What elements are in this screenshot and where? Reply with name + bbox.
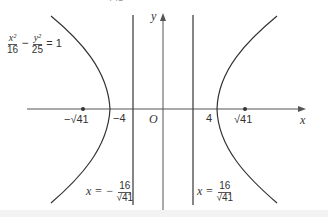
y-axis-label: y xyxy=(151,10,156,22)
neg-focus-label: −√41 xyxy=(64,114,89,125)
top-cut-text: √41 xyxy=(108,0,123,3)
pos-focus-label: √41 xyxy=(234,114,252,125)
right-focus-point xyxy=(243,107,247,111)
equation-label: x²16 − y²25 = 1 xyxy=(7,33,62,55)
origin-label: O xyxy=(149,113,158,125)
left-focus-point xyxy=(81,107,85,111)
bottom-strip xyxy=(0,210,328,217)
right-directrix-label: x = 16√41 xyxy=(197,181,233,203)
x-axis-label: x xyxy=(300,114,305,126)
hyperbola-diagram: √41 x²16 − y²25 = 1 y x O −√41 −4 4 √41 … xyxy=(0,0,328,217)
left-directrix-label: x = − 16√41 xyxy=(86,181,133,203)
x-axis-arrow-icon xyxy=(298,106,306,112)
neg-vertex-label: −4 xyxy=(113,113,126,124)
pos-vertex-label: 4 xyxy=(206,113,212,124)
y-axis-arrow-icon xyxy=(160,13,166,21)
